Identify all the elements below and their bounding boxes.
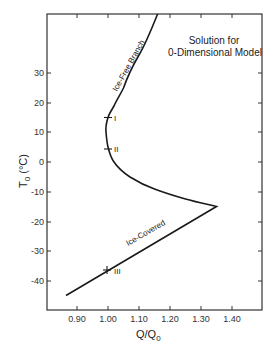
y-tick-label: 30 xyxy=(34,68,44,78)
chart-title-line1: Solution for xyxy=(189,35,240,46)
y-tick-label: -30 xyxy=(31,246,44,256)
y-tick-label: -20 xyxy=(31,217,44,227)
ice-covered-label: Ice-Covered xyxy=(125,218,167,248)
y-tick-label: 0 xyxy=(39,157,44,167)
y-tick-label: 10 xyxy=(34,127,44,137)
y-tick-label: -40 xyxy=(31,276,44,286)
y-axis-label: T0 (°C) xyxy=(17,154,32,188)
x-axis-label: Q/Q0 xyxy=(136,328,161,343)
chart-title-line2: 0-Dimensional Model xyxy=(168,47,262,58)
y-tick-label: 20 xyxy=(34,98,44,108)
x-tick-label: 1.00 xyxy=(99,314,117,324)
y-ticks xyxy=(47,73,262,281)
chart-figure: 0.90 1.00 1.10 1.20 1.30 1.40 30 20 10 0… xyxy=(0,0,278,347)
y-tick-label: -10 xyxy=(31,187,44,197)
point-label-III: III xyxy=(114,267,121,276)
x-tick-label: 1.20 xyxy=(161,314,179,324)
x-tick-label: 1.40 xyxy=(223,314,241,324)
x-tick-label: 0.90 xyxy=(68,314,86,324)
plot-frame xyxy=(47,14,262,310)
x-ticks xyxy=(77,14,232,310)
x-tick-label: 1.30 xyxy=(192,314,210,324)
point-label-I: I xyxy=(114,114,116,123)
x-tick-label: 1.10 xyxy=(130,314,148,324)
ice-free-branch-label: Ice-Free Branch xyxy=(111,38,147,93)
point-label-II: II xyxy=(114,145,118,154)
